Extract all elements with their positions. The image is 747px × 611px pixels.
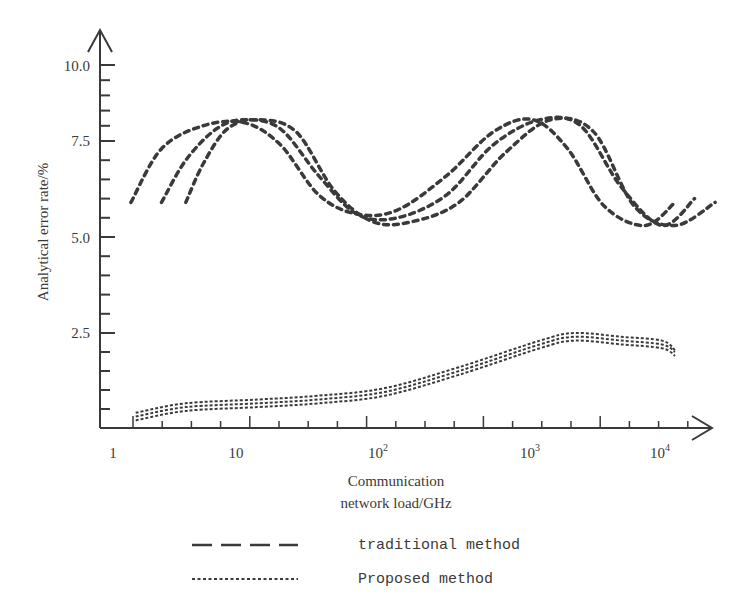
y-tick-label: 7.5: [71, 133, 90, 149]
x-tick-labels: 1 10 102 103 104: [109, 442, 670, 461]
series-line-proposed-3: [136, 341, 675, 421]
y-tick-label: 2.5: [71, 325, 90, 341]
series-layer: [131, 117, 715, 420]
x-tick-label: 103: [520, 442, 540, 461]
series-line-traditional-1: [131, 119, 675, 226]
chart-canvas: 10.0 7.5 5.0 2.5 1 10 102 103 104 Analyt…: [0, 0, 747, 611]
y-tick-label: 5.0: [71, 230, 90, 246]
legend-item-proposed: Proposed method: [190, 562, 520, 596]
x-tick-label: 102: [368, 442, 388, 461]
series-line-traditional-3: [186, 118, 715, 225]
y-axis: [88, 30, 112, 428]
series-line-proposed-2: [136, 337, 675, 417]
dashed-line-swatch-icon: [190, 539, 300, 551]
x-axis-title-line1: Communication: [348, 473, 445, 489]
series-line-proposed-1: [136, 333, 675, 413]
legend: traditional method Proposed method: [190, 528, 520, 596]
y-axis-ticks: [100, 65, 115, 409]
legend-label-proposed: Proposed method: [358, 571, 493, 588]
x-axis-ticks: [133, 416, 688, 428]
dotted-line-swatch-icon: [190, 573, 300, 585]
y-tick-label: 10.0: [64, 58, 90, 74]
x-tick-label: 104: [650, 442, 670, 461]
legend-label-traditional: traditional method: [358, 537, 520, 554]
x-tick-label: 10: [229, 445, 244, 461]
y-tick-labels: 10.0 7.5 5.0 2.5: [64, 58, 90, 341]
x-axis-title-line2: network load/GHz: [340, 495, 452, 511]
x-tick-label: 1: [109, 445, 117, 461]
y-axis-title: Analytical error rate/%: [35, 163, 51, 301]
legend-item-traditional: traditional method: [190, 528, 520, 562]
series-line-traditional-2: [162, 117, 695, 225]
